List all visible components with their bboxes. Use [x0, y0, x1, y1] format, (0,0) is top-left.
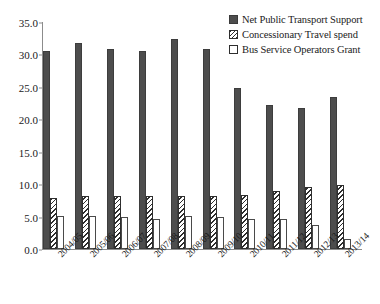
bar: [330, 97, 337, 249]
bar: [114, 196, 121, 249]
y-axis-tick-label: 30.0: [19, 50, 38, 61]
bar-group: [234, 22, 266, 249]
bar: [178, 196, 185, 249]
y-axis-tick-label: 25.0: [19, 82, 38, 93]
y-axis-tick-mark: [39, 185, 42, 186]
y-axis-tick-label: 35.0: [19, 18, 38, 29]
bar: [266, 105, 273, 249]
bar-groups: [43, 22, 362, 249]
y-axis-tick-label: 5.0: [24, 212, 38, 223]
bar: [75, 43, 82, 249]
bar: [82, 196, 89, 249]
y-axis-tick-mark: [39, 217, 42, 218]
bar: [273, 191, 280, 249]
bar: [234, 88, 241, 249]
bar: [298, 108, 305, 249]
y-axis-tick-mark: [39, 152, 42, 153]
y-axis-tick-mark: [39, 23, 42, 24]
y-axis-tick-mark: [39, 87, 42, 88]
bar: [241, 195, 248, 249]
bar-group: [171, 22, 203, 249]
bar-group: [330, 22, 362, 249]
y-axis-tick-label: 10.0: [19, 180, 38, 191]
bar: [210, 196, 217, 249]
bar: [107, 49, 114, 249]
bar-group: [75, 22, 107, 249]
y-axis-tick-mark: [39, 55, 42, 56]
y-axis-tick-mark: [39, 250, 42, 251]
y-axis-tick-mark: [39, 120, 42, 121]
bar: [146, 196, 153, 249]
bar-group: [203, 22, 235, 249]
x-axis-labels: 2004/052005/062006/072007/082008/092009/…: [43, 252, 362, 302]
bar-group: [107, 22, 139, 249]
plot-area: 0.05.010.015.020.025.030.035.0: [42, 22, 362, 250]
bar-group: [43, 22, 75, 249]
bar: [139, 51, 146, 249]
bar: [171, 39, 178, 249]
bar-group: [139, 22, 171, 249]
bar-chart: Net Public Transport SupportConcessionar…: [0, 0, 380, 304]
y-axis-tick-label: 0.0: [24, 245, 38, 256]
bar-group: [266, 22, 298, 249]
bar: [50, 198, 57, 249]
bar: [203, 49, 210, 249]
y-axis-tick-label: 15.0: [19, 147, 38, 158]
y-axis-tick-label: 20.0: [19, 115, 38, 126]
bar-group: [298, 22, 330, 249]
bar: [43, 51, 50, 249]
